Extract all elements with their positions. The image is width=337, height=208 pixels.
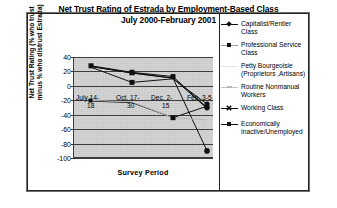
series-routine-nonmanual-line	[91, 100, 207, 120]
legend-label-petty-bourgeoisie: Petty Bourgeoisie (Proprietors ,Artisans…	[241, 62, 305, 78]
legend-label-economically-inactive: Economically Inactive/Unemployed	[241, 120, 303, 136]
y-tick--80: -80	[61, 141, 71, 148]
chart-legend: Capitalist/Rentier Class Professional Se…	[219, 14, 308, 190]
legend-item-professional-service[interactable]: Professional Service Class	[220, 41, 308, 57]
square-marker-icon	[220, 120, 239, 129]
dash-marker-icon	[220, 83, 239, 92]
legend-label-professional-service: Professional Service Class	[241, 41, 301, 57]
legend-item-economically-inactive[interactable]: Economically Inactive/Unemployed	[220, 120, 308, 136]
legend-label-working-class: Working Class	[241, 104, 283, 112]
y-tick-20: 20	[63, 68, 71, 75]
y-axis-label: Net Trust Rating (% who trust minus % wh…	[28, 0, 45, 104]
chart-figure: Net Trust Rating of Estrada by Employmen…	[0, 0, 337, 208]
y-tick-0: 0	[67, 83, 71, 90]
gridline--100	[74, 158, 213, 159]
x-cat-2-top: Dec. 2-	[151, 94, 172, 102]
triangle-marker-icon	[220, 62, 239, 71]
plot-area: 40 20 0 -20 -40 -60 -80 -100	[73, 57, 213, 158]
legend-item-routine-nonmanual[interactable]: Routine Nonmanual Workers	[220, 83, 308, 99]
legend-item-capitalist-rentier[interactable]: Capitalist/Rentier Class	[220, 20, 308, 36]
legend-label-routine-nonmanual: Routine Nonmanual Workers	[241, 83, 299, 99]
x-cat-1-bottom: 30	[127, 102, 134, 110]
diamond-marker-icon	[220, 20, 239, 29]
legend-item-petty-bourgeoisie[interactable]: Petty Bourgeoisie (Proprietors ,Artisans…	[220, 62, 308, 78]
x-cat-1-top: Oct. 17-	[116, 94, 139, 102]
legend-item-working-class[interactable]: Working Class	[220, 104, 308, 113]
x-cat-0-bottom: 18	[87, 102, 94, 110]
y-tick--20: -20	[61, 97, 71, 104]
chart-title-line1: Net Trust Rating of Estrada by Employmen…	[59, 4, 279, 14]
x-axis-label: Survey Period	[73, 168, 213, 177]
square-marker-icon	[220, 41, 239, 50]
x-marker-icon	[220, 104, 239, 113]
series-working-class-line	[91, 101, 207, 118]
x-cat-2-bottom: 15	[162, 102, 169, 110]
y-tick-40: 40	[63, 54, 71, 61]
y-tick--40: -40	[61, 112, 71, 119]
series-lines	[74, 57, 214, 158]
x-cat-3-top: Feb. 3-5	[187, 94, 212, 102]
x-cat-0-top: July 14-	[76, 94, 99, 102]
y-tick--60: -60	[61, 126, 71, 133]
legend-label-capitalist-rentier: Capitalist/Rentier Class	[241, 20, 291, 36]
y-tick--100: -100	[57, 155, 71, 162]
